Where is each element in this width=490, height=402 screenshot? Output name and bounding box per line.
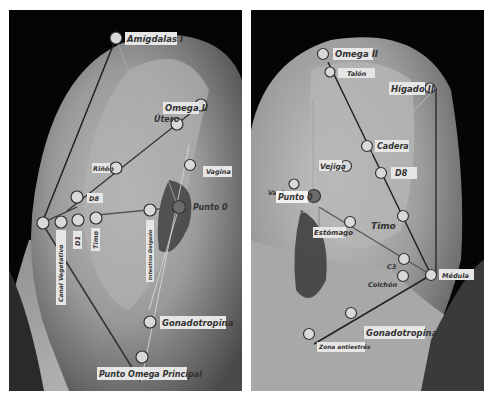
label-intestino-delgado: Intestino Delgado [147, 229, 154, 280]
point-cadera[interactable] [362, 141, 373, 152]
left-ear-panel: Amígdalas I Omega II Útero Riñón Vagina … [9, 10, 242, 391]
label-cadera: Cadera [377, 142, 409, 151]
point-punto-omega-principal[interactable] [136, 351, 148, 363]
point-d8[interactable] [71, 191, 83, 203]
point-d1[interactable] [72, 214, 84, 226]
point-talon[interactable] [325, 67, 335, 77]
point-gonadotropina[interactable] [346, 308, 357, 319]
label-d1: D1 [74, 236, 82, 246]
point-medula[interactable] [426, 270, 437, 281]
point-punto-0[interactable] [173, 201, 186, 214]
right-ear-panel: Omega II Talón Hígado II Cadera Vejiga D… [251, 10, 484, 391]
label-estomago: Estómago [314, 229, 353, 237]
label-punto-omega-principal: Punto Omega Principal [99, 370, 202, 379]
point-amigdalas[interactable] [110, 32, 122, 44]
label-timo: Timo [371, 221, 396, 231]
label-timo: Timo [92, 231, 100, 249]
point-gonadotropina[interactable] [144, 316, 156, 328]
point-c3[interactable] [399, 254, 410, 265]
label-omega-ii: Omega II [335, 49, 378, 59]
label-punto-0: Punto 0 [278, 193, 313, 202]
label-c3: C3 [387, 263, 397, 271]
label-vejiga: Vejiga [320, 162, 346, 171]
label-talon: Talón [347, 70, 367, 78]
label-zona-antiestres: Zona antiestrés [318, 344, 371, 350]
point-intestino-delgado[interactable] [144, 204, 156, 216]
label-d8: D8 [89, 195, 99, 203]
label-omega-ii: Omega II [165, 103, 208, 113]
left-ear-diagram: Amígdalas I Omega II Útero Riñón Vagina … [9, 10, 242, 391]
label-vagina: Vagina [206, 168, 231, 176]
point-vagina[interactable] [185, 160, 196, 171]
label-punto-0: Punto 0 [193, 203, 228, 212]
point-omega-ii[interactable] [318, 49, 329, 60]
point-estomago[interactable] [345, 217, 356, 228]
point-colchon[interactable] [398, 271, 409, 282]
label-gonadotropina: Gonadotropina [162, 318, 234, 328]
point-timo[interactable] [90, 212, 102, 224]
label-amigdalas: Amígdalas I [126, 34, 183, 44]
point-timo[interactable] [398, 211, 409, 222]
label-d8: D8 [395, 169, 408, 178]
label-gonadotropina: Gonadotropina [366, 328, 438, 338]
label-utero: Útero [154, 113, 180, 124]
point-d8[interactable] [376, 168, 387, 179]
point-canal-vegetativo[interactable] [55, 216, 67, 228]
label-canal-vegetativo: Canal Vegetativo [57, 245, 65, 302]
point-zona-antiestres[interactable] [304, 329, 315, 340]
point-vagina[interactable] [289, 179, 299, 189]
label-medula: Médula [442, 272, 469, 280]
label-colchon: Colchón [368, 281, 397, 289]
label-rinon: Riñón [93, 165, 114, 173]
right-ear-diagram: Omega II Talón Hígado II Cadera Vejiga D… [251, 10, 484, 391]
point-canal-origin[interactable] [37, 217, 49, 229]
label-higado-ii: Hígado II [391, 84, 434, 94]
